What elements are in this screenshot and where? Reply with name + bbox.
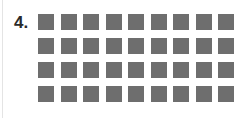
square	[38, 38, 54, 54]
square	[83, 14, 99, 30]
square	[151, 62, 167, 78]
problem-number: 4.	[14, 13, 28, 33]
square	[38, 14, 54, 30]
square	[218, 86, 234, 102]
square	[173, 38, 189, 54]
square	[106, 62, 122, 78]
square	[151, 14, 167, 30]
square	[196, 86, 212, 102]
square	[106, 14, 122, 30]
square	[218, 38, 234, 54]
square	[61, 86, 77, 102]
square	[38, 62, 54, 78]
square	[61, 14, 77, 30]
square	[173, 62, 189, 78]
square	[38, 86, 54, 102]
square	[83, 38, 99, 54]
square	[128, 14, 144, 30]
square	[106, 38, 122, 54]
square	[173, 86, 189, 102]
square	[128, 86, 144, 102]
square	[83, 86, 99, 102]
square	[61, 38, 77, 54]
square	[151, 86, 167, 102]
square	[61, 62, 77, 78]
square	[128, 38, 144, 54]
square	[106, 86, 122, 102]
square	[218, 14, 234, 30]
left-border	[2, 0, 3, 118]
square	[196, 38, 212, 54]
square	[128, 62, 144, 78]
square	[196, 62, 212, 78]
square	[196, 14, 212, 30]
square	[173, 14, 189, 30]
square-array	[38, 14, 234, 102]
square	[218, 62, 234, 78]
square	[151, 38, 167, 54]
square	[83, 62, 99, 78]
